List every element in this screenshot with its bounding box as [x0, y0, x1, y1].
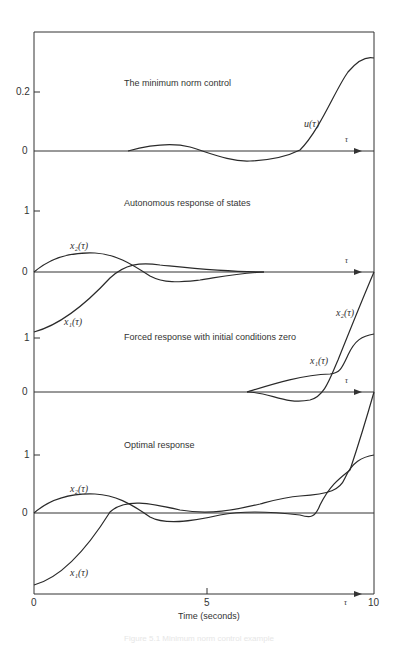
tau-arrow-icon	[354, 269, 362, 275]
curve-label-x1-p4: x₁(τ)	[70, 567, 88, 578]
ytick-p4-top: 1	[24, 449, 30, 460]
ytick-p4-zero: 0	[22, 507, 28, 518]
ytick-p2-zero: 0	[22, 266, 28, 277]
xtick-0: 0	[31, 597, 37, 608]
panel-title-p1: The minimum norm control	[124, 78, 231, 88]
curve-label-x1-p3: x₁(τ)	[310, 355, 328, 366]
panel-title-p4: Optimal response	[124, 440, 195, 450]
curve-label-x2-p2: x₂(τ)	[70, 240, 88, 251]
figure-caption: Figure 5.1 Minimum norm control example	[0, 634, 398, 643]
x2-curve-autonomous	[34, 253, 264, 282]
curve-label-x2-p3: x₂(τ)	[336, 307, 354, 318]
x-axis-label: Time (seconds)	[178, 611, 240, 621]
x2-curve-optimal	[34, 392, 374, 522]
ytick-p1-top: 0.2	[16, 86, 30, 97]
ytick-p2-top: 1	[24, 205, 30, 216]
ytick-p3-zero: 0	[22, 386, 28, 397]
curve-label-x2-p4: x₂(τ)	[70, 483, 88, 494]
chart-canvas	[0, 0, 398, 648]
panel-title-p3: Forced response with initial conditions …	[124, 332, 296, 342]
panel-title-p2: Autonomous response of states	[124, 198, 251, 208]
tau-arrow-icon	[354, 389, 362, 395]
tau-label-xaxis: τ	[344, 598, 347, 607]
ytick-p1-zero: 0	[22, 145, 28, 156]
curve-label-u: u(τ)	[304, 118, 319, 129]
tau-arrow-icon	[354, 148, 362, 154]
ytick-p3-top: 1	[24, 332, 30, 343]
u-curve	[128, 58, 374, 162]
xtick-5: 5	[204, 597, 210, 608]
x1-curve-optimal	[34, 455, 374, 585]
tau-label-p3: τ	[345, 376, 348, 385]
xtick-10: 10	[368, 597, 379, 608]
tau-label-p1: τ	[345, 135, 348, 144]
tau-label-p2: τ	[345, 256, 348, 265]
curve-label-x1-p2: x₁(τ)	[64, 316, 82, 327]
tau-arrow-icon	[354, 591, 362, 597]
